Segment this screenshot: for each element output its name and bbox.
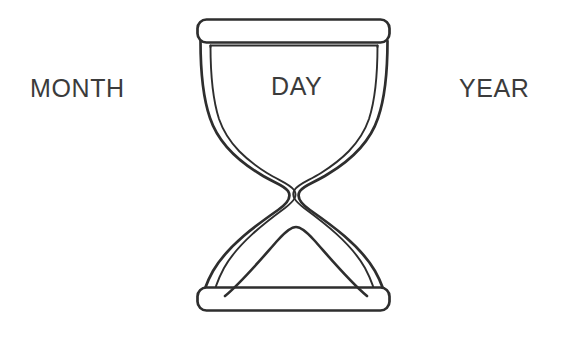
hourglass-illustration [0,0,567,345]
label-year: YEAR [459,76,529,101]
top-cap-group [198,20,390,48]
label-day: DAY [271,74,322,99]
label-month: MONTH [30,76,125,101]
upper-bulb-outer-contour [201,40,289,190]
top-cap-outer [198,20,390,43]
illustration-canvas: MONTH DAY YEAR [0,0,567,345]
